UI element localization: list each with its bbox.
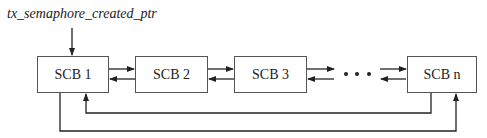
scb-node-2: SCB 2 xyxy=(135,56,208,93)
scb-node-n: SCB n xyxy=(407,56,477,93)
scb-node-1: SCB 1 xyxy=(37,56,109,93)
ellipsis-dots xyxy=(344,72,371,76)
pointer-label: tx_semaphore_created_ptr xyxy=(7,6,157,22)
semaphore-list-diagram: tx_semaphore_created_ptr SCB 1 SCB 2 SCB… xyxy=(0,0,487,138)
scb-node-3: SCB 3 xyxy=(234,56,307,93)
